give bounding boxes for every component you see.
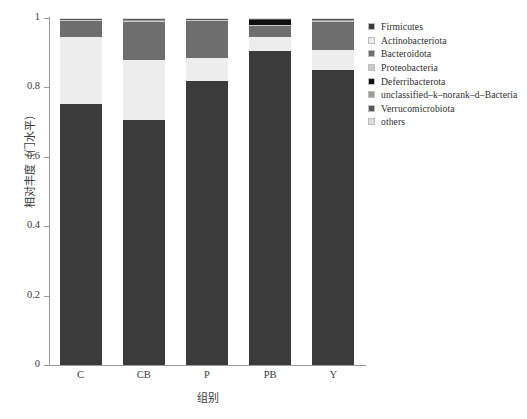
legend-label: Verrucomicrobiota	[381, 103, 455, 114]
legend-color-swatch	[368, 78, 375, 85]
legend-color-swatch	[368, 64, 375, 71]
stacked-bar[interactable]	[249, 18, 291, 365]
legend: FirmicutesActinobacteriotaBacteroidotaPr…	[368, 20, 526, 129]
legend-color-swatch	[368, 37, 375, 44]
legend-item[interactable]: Firmicutes	[368, 20, 526, 34]
legend-color-swatch	[368, 91, 375, 98]
legend-item[interactable]: others	[368, 115, 526, 129]
stacked-bar[interactable]	[312, 18, 354, 365]
legend-color-swatch	[368, 105, 375, 112]
legend-item[interactable]: Actinobacteriota	[368, 34, 526, 48]
bar-segment[interactable]	[249, 20, 291, 25]
bar-segment[interactable]	[60, 18, 102, 19]
bar-segment[interactable]	[249, 51, 291, 365]
bar-segment[interactable]	[249, 26, 291, 36]
x-axis-title: 组别	[49, 389, 366, 405]
legend-label: Deferribacterota	[381, 76, 445, 87]
y-axis-title: 相对丰度（门水平）	[21, 83, 37, 233]
x-axis-tick-label: CB	[114, 369, 174, 380]
stacked-bar[interactable]	[123, 18, 165, 365]
bar-segment[interactable]	[312, 70, 354, 365]
bar-segment[interactable]	[123, 20, 165, 21]
legend-item[interactable]: Deferribacterota	[368, 74, 526, 88]
y-axis-tick	[44, 365, 49, 366]
legend-label: Firmicutes	[381, 21, 423, 32]
bar-segment[interactable]	[186, 81, 228, 365]
bar-segment[interactable]	[60, 104, 102, 365]
bar-segment[interactable]	[186, 21, 228, 57]
y-axis-tick-label: 0.2	[0, 290, 40, 301]
legend-label: Bacteroidota	[381, 48, 431, 59]
x-axis-line	[49, 365, 366, 366]
legend-item[interactable]: Proteobacteria	[368, 61, 526, 75]
legend-color-swatch	[368, 118, 375, 125]
plot-area	[49, 18, 365, 365]
legend-color-swatch	[368, 23, 375, 30]
legend-label: others	[381, 116, 405, 127]
legend-item[interactable]: Verrucomicrobiota	[368, 102, 526, 116]
bar-segment[interactable]	[123, 60, 165, 120]
stacked-bar[interactable]	[186, 18, 228, 365]
bar-segment[interactable]	[60, 37, 102, 104]
bar-segment[interactable]	[249, 37, 291, 52]
legend-item[interactable]: Bacteroidota	[368, 47, 526, 61]
x-axis-tick-label: P	[177, 369, 237, 380]
x-axis-tick-label: Y	[303, 369, 363, 380]
bar-segment[interactable]	[123, 18, 165, 19]
figure-canvas: 00.20.40.60.81 CCBPPBY 相对丰度（门水平） 组别 Firm…	[0, 0, 527, 419]
y-axis-tick-label: 1	[0, 12, 40, 23]
legend-label: Proteobacteria	[381, 62, 438, 73]
legend-label: Actinobacteriota	[381, 35, 447, 46]
bar-segment[interactable]	[123, 120, 165, 365]
bar-segment[interactable]	[312, 22, 354, 49]
bar-segment[interactable]	[60, 21, 102, 37]
legend-item[interactable]: unclassified–k–norank–d–Bacteria	[368, 88, 526, 102]
x-axis-tick-label: C	[51, 369, 111, 380]
bar-segment[interactable]	[249, 18, 291, 19]
stacked-bar[interactable]	[60, 18, 102, 365]
bar-segment[interactable]	[123, 22, 165, 60]
bar-segment[interactable]	[312, 50, 354, 70]
y-axis-tick-label: 0	[0, 359, 40, 370]
bar-segment[interactable]	[312, 18, 354, 19]
x-axis-tick-label: PB	[240, 369, 300, 380]
legend-color-swatch	[368, 50, 375, 57]
bar-segment[interactable]	[186, 58, 228, 82]
legend-label: unclassified–k–norank–d–Bacteria	[381, 89, 517, 100]
bar-segment[interactable]	[312, 20, 354, 21]
bar-segment[interactable]	[249, 25, 291, 26]
bar-segment[interactable]	[186, 18, 228, 19]
